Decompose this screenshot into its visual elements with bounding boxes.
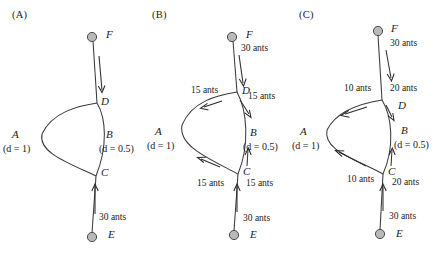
edge-a-c	[182, 125, 238, 174]
arrow-f-to-d	[239, 55, 246, 86]
arrow-e-to-c	[92, 184, 98, 214]
edge-f-d	[378, 35, 382, 100]
edge-d-b-c	[237, 92, 246, 174]
node-f	[373, 26, 382, 35]
node-label-b: B	[250, 126, 257, 138]
arrow-d-to-b	[240, 100, 251, 118]
diffusion-b: (d = 0.5)	[243, 141, 278, 152]
node-label-c: C	[388, 165, 395, 177]
diffusion-a: (d = 1)	[292, 140, 319, 151]
node-label-b: B	[106, 128, 113, 140]
flow-d-to-a: 15 ants	[191, 85, 218, 95]
flow-c-to-b: 15 ants	[246, 178, 273, 188]
edge-d-a	[327, 100, 382, 130]
diffusion-a: (d = 1)	[3, 143, 30, 154]
panel-c-graphic	[291, 0, 446, 255]
edge-f-d	[233, 41, 237, 92]
edge-a-c	[42, 134, 96, 176]
node-label-f: F	[246, 28, 253, 40]
node-e	[87, 232, 96, 241]
flow-d-to-b: 15 ants	[248, 91, 275, 101]
node-label-a: A	[300, 125, 307, 137]
node-label-c: C	[243, 165, 250, 177]
diffusion-b: (d = 0.5)	[394, 139, 429, 150]
arrow-c-to-a	[336, 151, 367, 167]
node-label-a: A	[155, 125, 162, 137]
node-label-f: F	[106, 28, 113, 40]
flow-e-to-c: 30 ants	[389, 211, 416, 221]
node-label-a: A	[12, 128, 19, 140]
node-f	[227, 32, 236, 41]
panel-b: (B)	[146, 0, 291, 255]
node-label-f: F	[391, 22, 398, 34]
flow-e-to-c: 30 ants	[99, 212, 126, 222]
node-label-d: D	[101, 95, 109, 107]
flow-f-to-d: 30 ants	[241, 43, 268, 53]
flow-f-to-d: 30 ants	[390, 38, 417, 48]
edge-d-a	[42, 103, 97, 134]
edge-a-c	[327, 130, 383, 174]
flow-c-to-a: 15 ants	[197, 178, 224, 188]
flow-c-to-a: 10 ants	[347, 174, 374, 184]
arrow-e-to-c	[234, 184, 240, 212]
arrow-f-to-d	[98, 56, 105, 93]
flow-d-to-b: 20 ants	[390, 83, 417, 93]
flow-c-to-b: 20 ants	[392, 177, 419, 187]
edge-d-a	[182, 92, 237, 125]
diffusion-a: (d = 1)	[147, 140, 174, 151]
node-label-c: C	[101, 166, 108, 178]
node-label-e: E	[108, 228, 115, 240]
node-label-d: D	[398, 99, 406, 111]
node-label-e: E	[396, 227, 403, 239]
flow-e-to-c: 30 ants	[243, 213, 270, 223]
flow-d-to-a: 10 ants	[344, 83, 371, 93]
panel-a: (A) F D A (d = 1) B (d = 0.5) C E 30 ant…	[0, 0, 146, 255]
node-label-e: E	[250, 228, 257, 240]
arrow-f-to-d	[386, 50, 394, 81]
node-e	[229, 230, 238, 239]
node-f	[87, 32, 96, 41]
panel-c: (C)	[291, 0, 446, 255]
node-e	[375, 229, 384, 238]
node-label-b: B	[401, 124, 408, 136]
diffusion-b: (d = 0.5)	[99, 143, 134, 154]
edge-f-d	[93, 41, 97, 103]
